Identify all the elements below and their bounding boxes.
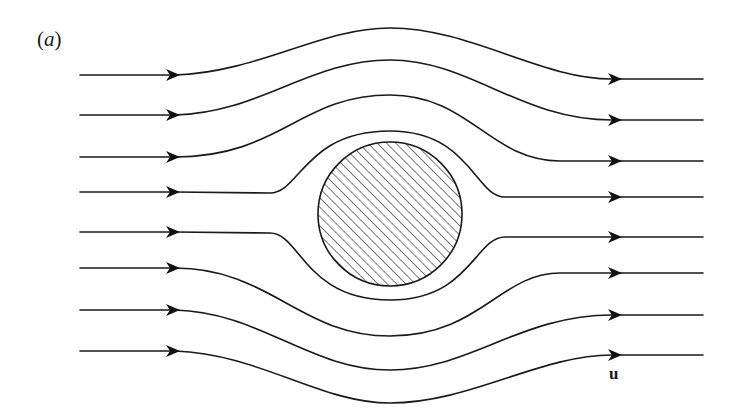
right-arrowheads: [608, 73, 622, 361]
panel-label-letter: a: [44, 27, 55, 51]
panel-label-open: (: [37, 27, 44, 51]
velocity-label: u: [609, 364, 618, 384]
streamline-plot: [0, 0, 741, 419]
streamline-1: [80, 28, 703, 79]
cylinder-obstacle: [318, 142, 462, 286]
left-arrowheads: [166, 69, 180, 357]
panel-label-close: ): [55, 27, 62, 51]
flow-diagram: (a) u: [0, 0, 741, 419]
panel-label: (a): [37, 27, 62, 52]
streamline-2: [80, 60, 703, 120]
